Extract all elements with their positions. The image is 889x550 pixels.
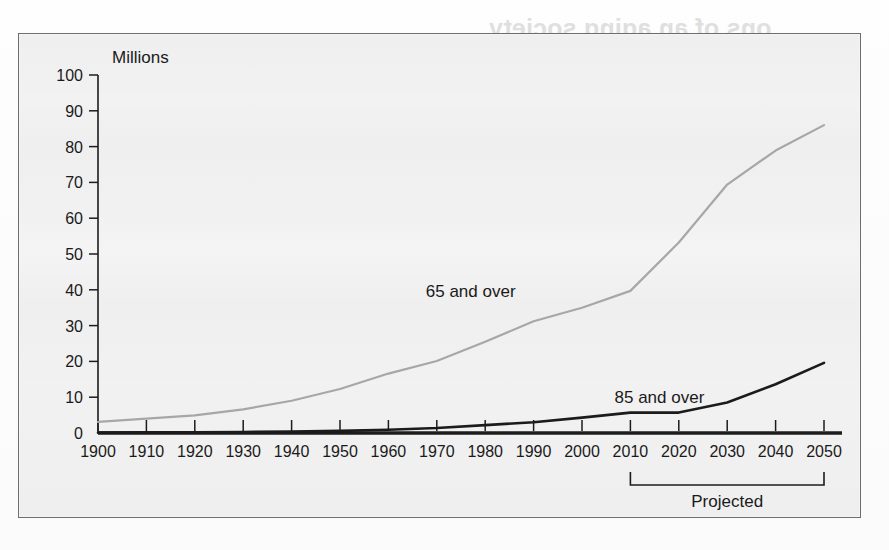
- y-axis: 0102030405060708090100Millions: [56, 48, 168, 442]
- y-tick-label: 90: [65, 103, 83, 120]
- y-tick-label: 100: [56, 67, 83, 84]
- y-tick-label: 30: [65, 318, 83, 335]
- y-tick-label: 0: [74, 425, 83, 442]
- x-tick-label: 1970: [419, 443, 455, 460]
- x-tick-label: 2010: [613, 443, 649, 460]
- x-tick-label: 2030: [709, 443, 745, 460]
- annotation-group: Projected: [630, 472, 824, 511]
- x-tick-label: 1940: [274, 443, 310, 460]
- x-tick-label: 2020: [661, 443, 697, 460]
- series-label-group: 65 and over85 and over: [426, 282, 705, 407]
- x-tick-label: 1950: [322, 443, 358, 460]
- chart-figure-frame: 0102030405060708090100Millions 190019101…: [18, 33, 861, 518]
- series-label-65-and-over: 65 and over: [426, 282, 516, 301]
- x-tick-label: 1930: [225, 443, 261, 460]
- y-axis-unit-label: Millions: [112, 48, 169, 67]
- data-series-group: [98, 125, 824, 433]
- x-tick-label: 2040: [758, 443, 794, 460]
- x-tick-label: 1910: [129, 443, 165, 460]
- y-tick-label: 20: [65, 353, 83, 370]
- y-tick-label: 10: [65, 389, 83, 406]
- y-tick-label: 50: [65, 246, 83, 263]
- y-tick-label: 80: [65, 139, 83, 156]
- series-line-85-and-over: [98, 363, 824, 433]
- x-tick-label: 2050: [806, 443, 842, 460]
- y-tick-label: 40: [65, 282, 83, 299]
- projected-bracket-icon: [630, 472, 824, 485]
- x-tick-label: 1920: [177, 443, 213, 460]
- line-chart-plot: 0102030405060708090100Millions 190019101…: [19, 34, 860, 517]
- x-tick-label: 1980: [467, 443, 503, 460]
- x-tick-label: 1990: [516, 443, 552, 460]
- series-label-85-and-over: 85 and over: [615, 388, 705, 407]
- series-line-65-and-over: [98, 125, 824, 422]
- x-tick-label: 1900: [80, 443, 116, 460]
- y-tick-label: 60: [65, 210, 83, 227]
- y-tick-label: 70: [65, 174, 83, 191]
- x-tick-label: 2000: [564, 443, 600, 460]
- x-tick-label: 1960: [371, 443, 407, 460]
- scanned-page-background: ...ons of an aging society ...as Health …: [0, 0, 889, 550]
- projected-annotation-label: Projected: [691, 492, 763, 511]
